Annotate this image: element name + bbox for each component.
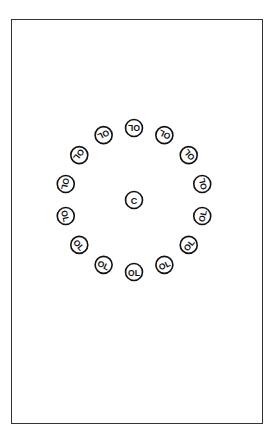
ring-marker: OL bbox=[57, 208, 74, 225]
circular-marker-diagram: C OLOLOLOLOLOLOLOLOLOLOLOLOLOL bbox=[0, 0, 278, 439]
ring-marker: OL bbox=[126, 120, 143, 137]
ring-marker: OL bbox=[71, 236, 88, 253]
center-label: C bbox=[131, 196, 138, 206]
ring-marker: OL bbox=[95, 127, 112, 144]
ring-marker: OL bbox=[180, 236, 197, 253]
ring-marker: OL bbox=[156, 127, 173, 144]
ring-marker: OL bbox=[194, 175, 211, 192]
ring-marker: OL bbox=[194, 208, 211, 225]
ring-marker: OL bbox=[126, 264, 143, 281]
ring-marker: OL bbox=[156, 256, 173, 273]
ring-marker: OL bbox=[57, 175, 74, 192]
ring-marker: OL bbox=[95, 256, 112, 273]
ring-marker-label: OL bbox=[128, 268, 140, 278]
ring-marker: OL bbox=[71, 147, 88, 164]
ring-marker: OL bbox=[180, 147, 197, 164]
ring-marker-label: OL bbox=[128, 123, 140, 133]
center-marker: C bbox=[126, 192, 143, 209]
